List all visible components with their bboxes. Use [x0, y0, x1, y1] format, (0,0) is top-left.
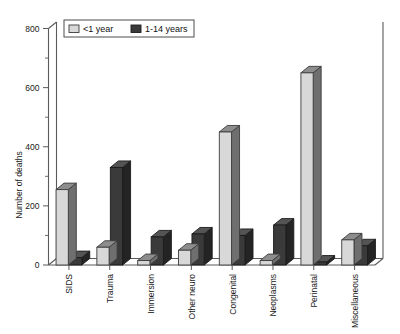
x-tick-label: Neoplasms: [268, 274, 278, 317]
x-tick-label: Trauma: [105, 274, 115, 303]
y-tick-label: 600: [25, 83, 39, 93]
x-axis: SIDSTraumaImmersionOther neuroCongenital…: [64, 265, 360, 328]
chart-canvas: Number of deaths 0200400600800 SIDSTraum…: [0, 0, 400, 334]
bar-perinatal-under-1-year: [301, 66, 321, 265]
y-tick-label: 800: [25, 24, 39, 34]
x-tick-label: Perinatal: [309, 274, 319, 308]
y-tick-label: 400: [25, 142, 39, 152]
x-tick-label: Congenital: [228, 274, 238, 315]
y-tick-label: 0: [35, 260, 40, 270]
axis-depth-top: [49, 22, 57, 29]
x-axis-right-depth: [375, 259, 383, 266]
legend-swatch-1-14-years: [131, 25, 141, 33]
y-axis-title: Number of deaths: [14, 151, 24, 219]
bar-congenital-under-1-year: [219, 125, 239, 265]
bar-miscellaneous-under-1-year: [342, 233, 362, 265]
legend-swatch-under-1-year: [69, 25, 79, 33]
legend-label-under-1-year: <1 year: [83, 24, 113, 34]
axis-depth-bottom: [49, 259, 57, 266]
legend-label-1-14-years: 1-14 years: [145, 24, 188, 34]
x-tick-label: Other neuro: [187, 274, 197, 320]
x-tick-label: Immersion: [146, 274, 156, 314]
deaths-by-cause-bar-chart: Number of deaths 0200400600800 SIDSTraum…: [0, 0, 400, 334]
legend: <1 year 1-14 years: [64, 20, 194, 37]
bar-trauma-under-1-year: [97, 241, 117, 265]
y-tick-label: 200: [25, 201, 39, 211]
bar-sids-under-1-year: [56, 183, 76, 265]
plot-frame: [49, 22, 384, 265]
y-axis: 0200400600800: [25, 24, 48, 271]
x-tick-label: SIDS: [64, 274, 74, 294]
bars-layer: [56, 66, 375, 265]
x-tick-label: Miscellaneous: [350, 274, 360, 328]
